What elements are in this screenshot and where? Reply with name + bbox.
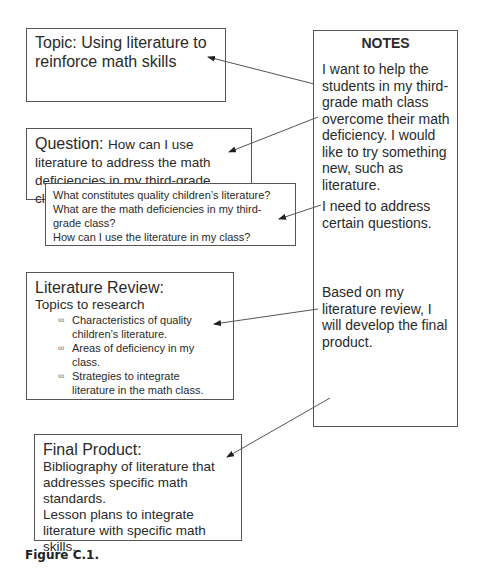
list-item-text: Strategies to integrate literature in th…	[72, 370, 203, 396]
list-item-text: Characteristics of quality children’s li…	[72, 314, 192, 340]
question-label: Question:	[35, 135, 103, 152]
note-paragraph: Based on my literature review, I will de…	[322, 284, 451, 350]
list-item: ∞ Characteristics of quality children’s …	[58, 313, 225, 341]
list-item-text: Areas of deficiency in my class.	[72, 342, 194, 368]
infinity-bullet-icon: ∞	[58, 313, 64, 327]
notes-title: NOTES	[322, 35, 449, 52]
note-paragraph: I want to help the students in my third-…	[322, 61, 451, 193]
notes-panel: NOTES I want to help the students in my …	[313, 30, 458, 427]
infinity-bullet-icon: ∞	[58, 341, 64, 355]
sub-question: What are the math deficiencies in my thi…	[53, 202, 288, 230]
topic-label: Topic:	[35, 34, 77, 51]
sub-question: How can I use the literature in my class…	[53, 230, 288, 244]
literature-review-subtitle: Topics to research	[35, 297, 225, 313]
list-item: ∞ Strategies to integrate literature in …	[58, 369, 225, 397]
final-product-line: Bibliography of literature that addresse…	[43, 459, 233, 507]
sub-question: What constitutes quality children’s lite…	[53, 188, 288, 202]
final-product-label: Final Product:	[43, 440, 233, 459]
topic-box: Topic: Using literature to reinforce mat…	[26, 28, 226, 102]
research-topics-list: ∞ Characteristics of quality children’s …	[35, 313, 225, 397]
sub-questions-box: What constitutes quality children’s lite…	[45, 183, 296, 246]
infinity-bullet-icon: ∞	[58, 369, 64, 383]
figure-caption: Figure C.1.	[25, 548, 99, 562]
note-paragraph: I need to address certain questions.	[322, 198, 451, 231]
list-item: ∞ Areas of deficiency in my class.	[58, 341, 225, 369]
final-product-box: Final Product: Bibliography of literatur…	[34, 434, 242, 541]
literature-review-label: Literature Review:	[35, 278, 225, 297]
literature-review-box: Literature Review: Topics to research ∞ …	[26, 272, 234, 400]
